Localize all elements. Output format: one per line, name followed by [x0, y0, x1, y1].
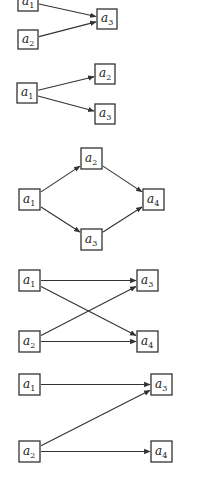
node-label-subscript: 3 — [92, 239, 97, 248]
diagram-canvas: a1a2a3a1a2a3a1a2a3a4a1a2a3a4a1a2a3a4 — [0, 0, 199, 495]
node-label-subscript: 1 — [28, 92, 33, 101]
edge-arrow-a2-to-a3 — [41, 390, 150, 445]
node-label-subscript: 4 — [154, 199, 159, 208]
edge-arrow-a2-to-a4 — [103, 166, 142, 192]
node-a3: a3 — [97, 9, 117, 29]
node-a4: a4 — [151, 441, 172, 462]
edge-arrow-a1-to-a3 — [38, 96, 94, 111]
node-a1: a1 — [17, 83, 37, 103]
node-label-subscript: 4 — [148, 341, 153, 350]
nodes-layer: a1a2a3a1a2a3a1a2a3a4a1a2a3a4a1a2a3a4 — [17, 0, 172, 462]
node-a2: a2 — [19, 441, 40, 462]
node-label-subscript: 2 — [30, 451, 35, 460]
edge-arrow-a2-to-a3 — [39, 22, 96, 37]
node-label-subscript: 2 — [30, 341, 35, 350]
node-a1: a1 — [19, 189, 40, 210]
edge-arrow-a1-to-a3 — [39, 4, 96, 17]
node-label-subscript: 2 — [29, 39, 34, 48]
node-label-subscript: 1 — [30, 384, 35, 393]
edge-arrow-a1-to-a3 — [41, 207, 80, 232]
node-a2: a2 — [81, 148, 102, 169]
node-label-subscript: 2 — [106, 73, 111, 82]
edge-arrow-a1-to-a2 — [41, 166, 80, 192]
node-label-subscript: 3 — [162, 384, 167, 393]
node-a3: a3 — [137, 270, 158, 291]
node-label-subscript: 3 — [108, 18, 113, 27]
node-a2: a2 — [95, 64, 115, 84]
node-label-subscript: 2 — [92, 158, 97, 167]
node-label-subscript: 1 — [30, 280, 35, 289]
node-label-subscript: 1 — [30, 199, 35, 208]
node-a3: a3 — [81, 229, 102, 250]
edges-layer — [38, 4, 150, 452]
node-a4: a4 — [143, 189, 164, 210]
node-a2: a2 — [18, 30, 38, 49]
node-a1: a1 — [18, 0, 38, 11]
node-a1: a1 — [19, 270, 40, 291]
edge-arrow-a1-to-a2 — [38, 77, 94, 91]
node-label-subscript: 3 — [106, 113, 111, 122]
node-a2: a2 — [19, 331, 40, 352]
node-label-subscript: 3 — [148, 280, 153, 289]
edge-arrow-a3-to-a4 — [103, 207, 142, 232]
node-a3: a3 — [151, 374, 172, 395]
node-label-subscript: 1 — [29, 1, 34, 10]
node-label-subscript: 4 — [162, 451, 167, 460]
node-a4: a4 — [137, 331, 158, 352]
node-a3: a3 — [95, 104, 115, 124]
node-a1: a1 — [19, 374, 40, 395]
